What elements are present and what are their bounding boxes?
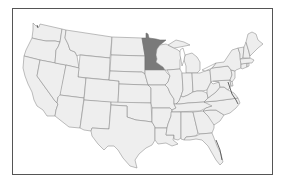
state-arizona[interactable]: [55, 95, 84, 128]
state-new-mexico[interactable]: [80, 100, 111, 131]
lake-michigan: [180, 48, 185, 66]
state-north-dakota[interactable]: [111, 37, 145, 56]
state-florida[interactable]: [184, 133, 223, 165]
state-wyoming[interactable]: [78, 55, 110, 80]
state-iowa[interactable]: [145, 70, 170, 85]
state-rhode-island[interactable]: [247, 63, 249, 67]
state-colorado[interactable]: [84, 78, 119, 103]
us-map: [0, 0, 288, 185]
state-pennsylvania[interactable]: [210, 66, 232, 82]
state-kansas[interactable]: [118, 84, 151, 103]
state-massachusetts[interactable]: [240, 58, 254, 64]
